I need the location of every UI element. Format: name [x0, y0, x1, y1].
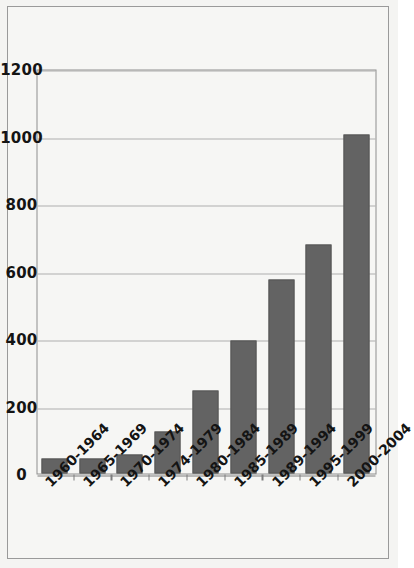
- bar-row: [299, 71, 337, 474]
- category-tick: [337, 475, 338, 481]
- category-tick: [148, 475, 149, 481]
- plot-area: [36, 70, 376, 475]
- value-axis-label-800: 800: [0, 196, 45, 214]
- category-tick: [73, 475, 74, 481]
- bar-chart: 020040060080010001200 1960-19641965-1969…: [8, 8, 390, 561]
- category-tick: [186, 475, 187, 481]
- category-tick: [110, 475, 111, 481]
- bar-row: [186, 71, 224, 474]
- category-tick: [224, 475, 225, 481]
- bar-row: [73, 71, 111, 474]
- bar-row: [262, 71, 300, 474]
- bar-row: [111, 71, 149, 474]
- value-axis-label-600: 600: [0, 263, 45, 281]
- bar-series: [37, 71, 375, 474]
- bar-row: [337, 71, 375, 474]
- value-axis-label-0: 0: [0, 466, 45, 484]
- bar-row: [148, 71, 186, 474]
- value-axis-label-200: 200: [0, 398, 45, 416]
- value-axis-label-1000: 1000: [0, 128, 45, 146]
- category-tick: [261, 475, 262, 481]
- bar-row: [224, 71, 262, 474]
- value-axis-label-1200: 1200: [0, 61, 45, 79]
- rotated-chart-wrapper: 020040060080010001200 1960-19641965-1969…: [8, 8, 390, 561]
- value-axis-label-400: 400: [0, 331, 45, 349]
- category-tick: [299, 475, 300, 481]
